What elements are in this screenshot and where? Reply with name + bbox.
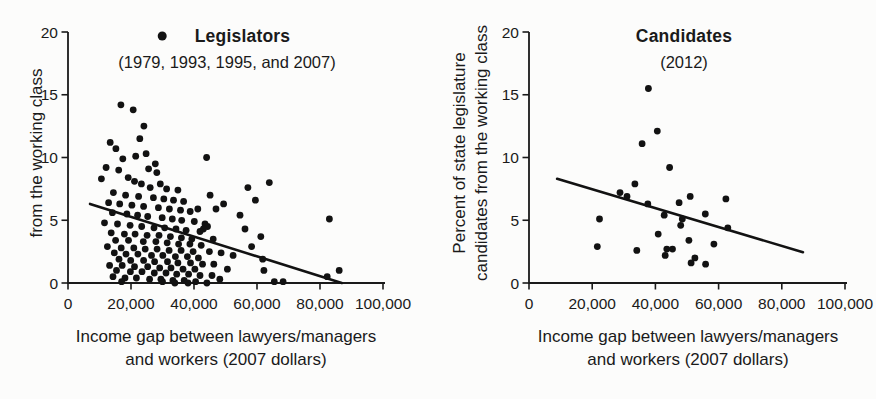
data-point <box>104 243 111 250</box>
data-point <box>156 265 163 272</box>
data-point <box>132 231 139 238</box>
data-point <box>144 213 151 220</box>
data-point <box>192 266 199 273</box>
y-label-line: from the working class <box>26 68 48 237</box>
x-tick-label: 60,000 <box>695 295 743 312</box>
data-point <box>187 260 194 267</box>
x-label-line-2: and workers (2007 dollars) <box>538 348 839 371</box>
data-point <box>166 247 173 254</box>
y-tick-label: 5 <box>510 212 519 229</box>
data-point <box>124 211 131 218</box>
y-tick-label: 0 <box>510 275 519 292</box>
data-point <box>152 160 159 167</box>
data-point <box>170 197 177 204</box>
data-point <box>106 262 113 269</box>
y-label-line-2: candidates from the working class <box>471 25 493 281</box>
data-point <box>166 206 173 213</box>
data-point <box>140 203 147 210</box>
data-point <box>711 241 718 248</box>
data-point <box>132 153 139 160</box>
data-point <box>257 233 264 240</box>
data-point <box>197 228 204 235</box>
data-point <box>151 270 158 277</box>
candidates-title: Candidates <box>636 26 732 47</box>
data-point <box>159 252 166 259</box>
data-point <box>155 204 162 211</box>
data-point <box>210 236 217 243</box>
data-point <box>195 255 202 262</box>
data-point <box>118 245 125 252</box>
data-point <box>173 271 180 278</box>
data-point <box>679 216 686 223</box>
candidates-x-axis-label: Income gap between lawyers/managers and … <box>538 325 839 371</box>
data-point <box>139 268 146 275</box>
data-point <box>191 218 198 225</box>
y-tick-label: 20 <box>41 24 59 41</box>
data-point <box>116 201 123 208</box>
data-point <box>144 263 151 270</box>
legend-dot-icon <box>158 32 167 41</box>
data-point <box>156 232 163 239</box>
data-point <box>180 198 187 205</box>
data-point <box>218 250 225 257</box>
x-tick-label: 80,000 <box>758 295 806 312</box>
data-point <box>153 169 160 176</box>
data-point <box>230 252 237 259</box>
data-point <box>190 248 197 255</box>
data-point <box>107 139 114 146</box>
data-point <box>134 212 141 219</box>
x-tick-label: 60,000 <box>233 295 281 312</box>
data-point <box>133 275 140 282</box>
data-point <box>114 221 121 228</box>
data-point <box>141 123 148 130</box>
data-point <box>617 189 624 196</box>
data-point <box>633 247 640 254</box>
data-point <box>210 261 217 268</box>
x-tick-label: 100,000 <box>817 295 873 312</box>
data-point <box>242 226 249 233</box>
data-point <box>112 237 119 244</box>
data-point <box>209 272 216 279</box>
data-point <box>245 184 252 191</box>
data-point <box>164 239 171 246</box>
data-point <box>130 106 137 113</box>
data-point <box>724 224 731 231</box>
data-point <box>185 280 192 287</box>
data-point <box>131 178 138 185</box>
data-point <box>122 192 129 199</box>
data-point <box>686 237 693 244</box>
data-point <box>220 201 227 208</box>
trend-line <box>557 179 803 252</box>
data-point <box>180 266 187 273</box>
data-point <box>163 270 170 277</box>
data-point <box>213 206 220 213</box>
x-tick-label: 100,000 <box>355 295 411 312</box>
data-point <box>153 238 160 245</box>
data-point <box>161 224 168 231</box>
legislators-title-row: Legislators <box>158 26 291 47</box>
legislators-x-axis-label: Income gap between lawyers/managers and … <box>76 325 377 371</box>
candidates-y-axis-label: Percent of state legislature candidates … <box>449 25 493 281</box>
data-point <box>125 174 132 181</box>
data-point <box>140 257 147 264</box>
data-point <box>336 267 343 274</box>
data-point <box>594 243 601 250</box>
y-tick-label: 5 <box>49 212 58 229</box>
data-point <box>146 276 153 283</box>
x-tick-label: 0 <box>525 295 534 312</box>
x-tick-label: 20,000 <box>568 295 616 312</box>
data-point <box>184 253 191 260</box>
x-tick-label: 40,000 <box>632 295 680 312</box>
data-point <box>194 206 201 213</box>
data-point <box>199 261 206 268</box>
data-point <box>157 181 164 188</box>
data-point <box>175 260 182 267</box>
data-point <box>98 175 105 182</box>
data-point <box>175 241 182 248</box>
data-point <box>169 216 176 223</box>
x-tick-label: 40,000 <box>170 295 218 312</box>
data-point <box>148 252 155 259</box>
data-point <box>147 184 154 191</box>
data-point <box>138 181 145 188</box>
data-point <box>160 196 167 203</box>
